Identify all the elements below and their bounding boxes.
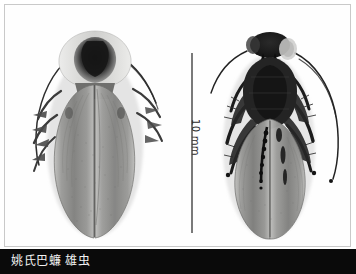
photograph: 10 mm	[5, 5, 350, 246]
specimen-left-dorsal	[25, 15, 180, 240]
caption-bar: 姚氏巴蠊 雄虫	[0, 249, 356, 274]
caption-text: 姚氏巴蠊 雄虫	[11, 253, 90, 270]
specimen-right-ventral	[195, 15, 350, 240]
specimen-plate: 10 mm 姚氏巴蠊 雄虫	[0, 0, 356, 274]
scale-bar-label: 10 mm	[188, 119, 202, 169]
